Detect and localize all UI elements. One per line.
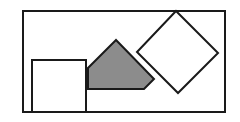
diagram-canvas bbox=[0, 0, 240, 122]
square bbox=[32, 60, 86, 112]
